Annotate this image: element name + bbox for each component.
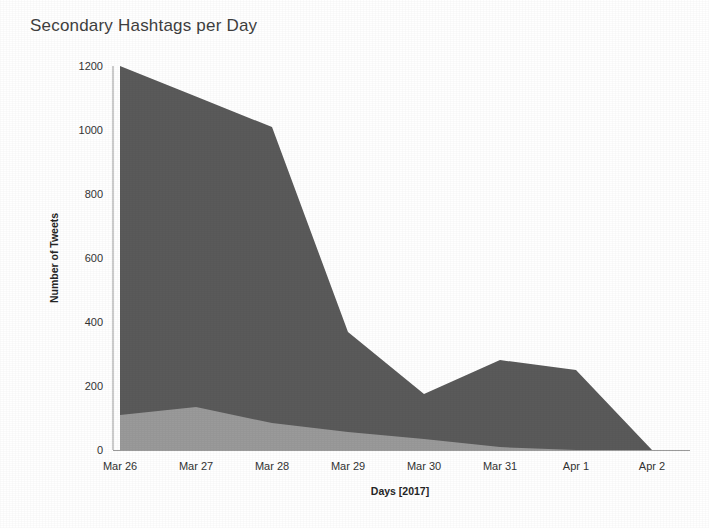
y-axis-title: Number of Tweets: [48, 213, 60, 303]
x-axis-title: Days [2017]: [371, 485, 429, 497]
y-tick-label-1000: 1000: [79, 124, 103, 136]
plot-areas: [120, 66, 652, 450]
y-tick-label-800: 800: [85, 188, 103, 200]
y-tick-label-600: 600: [85, 252, 103, 264]
y-tick-label-400: 400: [85, 316, 103, 328]
x-tick-label-mar-26: Mar 26: [103, 460, 137, 472]
x-tick-label-mar-30: Mar 30: [407, 460, 441, 472]
x-tick-label-apr-1: Apr 1: [563, 460, 589, 472]
y-tick-label-0: 0: [97, 444, 103, 456]
x-tick-label-mar-28: Mar 28: [255, 460, 289, 472]
x-axis-tick-labels: Mar 26Mar 27Mar 28Mar 29Mar 30Mar 31Apr …: [103, 460, 665, 472]
y-axis-tick-labels: 1200 1000 800 600 400 200 0: [79, 60, 103, 456]
x-tick-label-apr-2: Apr 2: [639, 460, 665, 472]
x-tick-label-mar-29: Mar 29: [331, 460, 365, 472]
chart-container: Secondary Hashtags per Day 1200 1000 800…: [0, 0, 709, 528]
x-tick-label-mar-27: Mar 27: [179, 460, 213, 472]
y-tick-label-1200: 1200: [79, 60, 103, 72]
x-tick-label-mar-31: Mar 31: [483, 460, 517, 472]
y-tick-label-200: 200: [85, 380, 103, 392]
area-series-upper: [120, 66, 652, 450]
area-chart-plot: 1200 1000 800 600 400 200 0 Number of Tw…: [0, 0, 709, 528]
